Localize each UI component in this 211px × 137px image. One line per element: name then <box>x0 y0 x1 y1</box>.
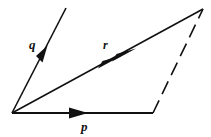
vector-q-arrowhead <box>36 46 48 63</box>
vector-label-r: r <box>103 39 108 51</box>
vector-diagram-figure: q r p <box>0 0 211 137</box>
construction-line-parallel-to-q <box>153 9 203 113</box>
vector-p <box>12 108 153 119</box>
vector-label-q: q <box>29 38 36 51</box>
vector-label-p: p <box>81 120 88 133</box>
vector-p-arrowhead <box>69 108 88 119</box>
dashed-side <box>153 9 203 113</box>
vector-q <box>12 8 66 113</box>
vector-r <box>12 9 203 113</box>
vector-q-shaft <box>12 8 66 113</box>
vector-diagram-canvas <box>0 0 211 137</box>
vector-r-arrowhead-outer <box>112 49 136 62</box>
